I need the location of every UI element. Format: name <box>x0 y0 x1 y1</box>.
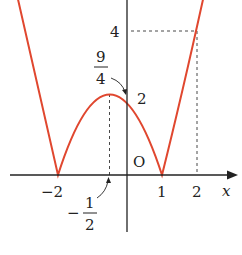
neg-half-arrowhead-icon <box>106 177 111 183</box>
label-vertex-den: 4 <box>96 70 106 88</box>
label-neg-half-num: 1 <box>85 194 95 212</box>
label-y2: 2 <box>137 90 147 108</box>
label-x1: 1 <box>157 183 167 201</box>
label-vertex-num: 9 <box>96 48 106 66</box>
guide-lines <box>110 31 198 175</box>
x-axis-arrow-icon <box>227 171 238 180</box>
function-graph: 4 2 9 4 O −2 1 2 x − 1 2 <box>0 0 242 255</box>
label-origin: O <box>133 153 145 171</box>
label-y4: 4 <box>110 23 120 41</box>
label-neg-half-sign: − <box>67 204 80 222</box>
label-neg-half-den: 2 <box>85 216 95 234</box>
label-x2: 2 <box>192 183 202 201</box>
label-x-neg2: −2 <box>41 183 63 201</box>
label-x-axis: x <box>222 182 231 200</box>
neg-half-annotation-arrow-icon <box>97 181 108 198</box>
vertex-arrowhead-icon <box>122 89 127 95</box>
